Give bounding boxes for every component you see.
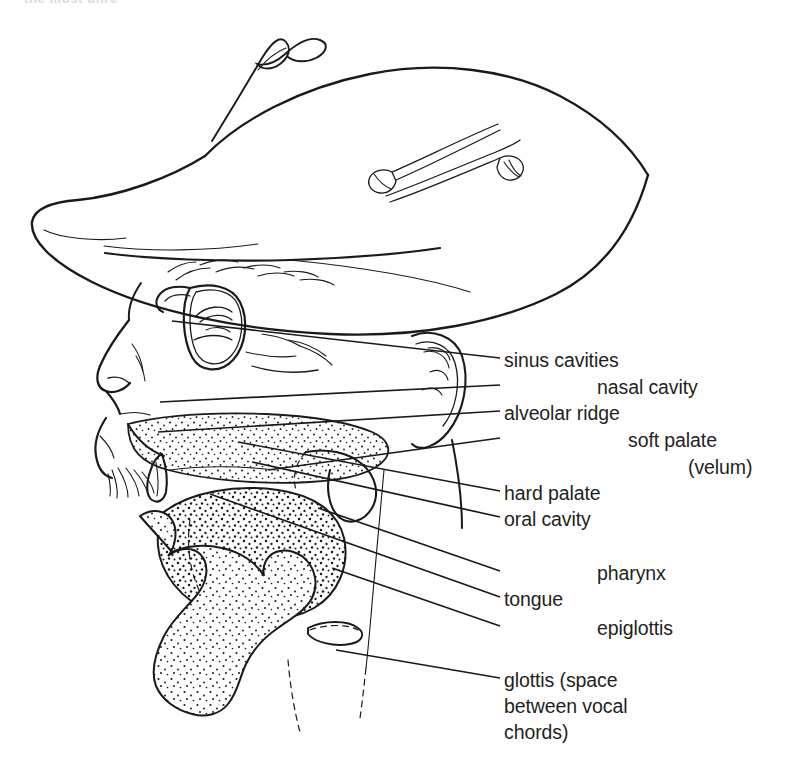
- ear: [412, 333, 466, 448]
- pharyngeal-wall-lower: [360, 668, 366, 718]
- hat: [32, 39, 648, 335]
- vocal-tract-anatomy: [128, 413, 462, 732]
- label-alveolar-ridge: alveolar ridge: [504, 401, 620, 426]
- label-sinus-cavities: sinus cavities: [504, 348, 619, 373]
- label-glottis-l3: chords): [504, 720, 568, 745]
- hat-brim-crease: [104, 244, 258, 250]
- crossed-pipes-emblem: [369, 124, 524, 202]
- hat-crown: [205, 68, 648, 175]
- nostril: [108, 377, 129, 383]
- upper-lip: [106, 391, 120, 414]
- label-pharynx: pharynx: [597, 561, 666, 586]
- diagram-page: the most unre: [0, 0, 793, 773]
- trachea-front: [288, 660, 300, 732]
- label-epiglottis: epiglottis: [597, 616, 673, 641]
- label-hard-palate: hard palate: [504, 481, 600, 506]
- label-glottis-l2: between vocal: [504, 694, 627, 719]
- label-velum: (velum): [688, 455, 752, 480]
- leader-epiglottis: [332, 568, 500, 626]
- leader-nasal-cavity: [160, 385, 500, 402]
- leader-glottis: [336, 650, 500, 678]
- hat-feather: [212, 39, 326, 141]
- label-soft-palate: soft palate: [628, 428, 717, 453]
- label-tongue: tongue: [504, 587, 563, 612]
- label-nasal-cavity: nasal cavity: [597, 375, 698, 400]
- label-oral-cavity: oral cavity: [504, 507, 591, 532]
- hat-brim-fold: [44, 230, 126, 240]
- nose: [97, 320, 130, 392]
- label-glottis-l1: glottis (space: [504, 668, 618, 693]
- hat-brim-top: [32, 156, 205, 222]
- cheek-crease: [246, 352, 296, 357]
